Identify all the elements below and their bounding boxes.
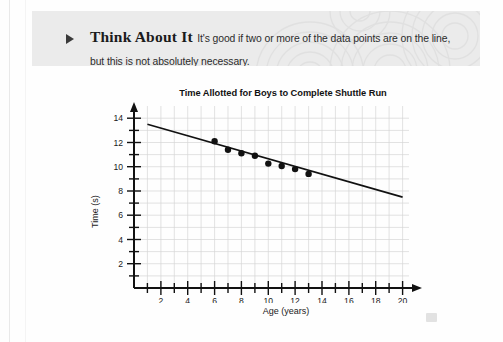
y-tick-label: 8 xyxy=(118,186,123,196)
data-point xyxy=(279,163,285,169)
data-point xyxy=(305,171,311,177)
page-binding-edge xyxy=(9,0,10,342)
y-tick-label: 4 xyxy=(118,235,123,245)
y-axis-tick-labels: 2 4 6 8 10 12 14 xyxy=(113,113,123,269)
x-tick-label: 16 xyxy=(344,296,354,303)
y-axis-label: Time (s) xyxy=(90,195,100,228)
data-point xyxy=(265,160,271,166)
x-tick-label: 14 xyxy=(317,296,327,303)
x-tick-label: 8 xyxy=(239,296,244,303)
x-tick-label: 12 xyxy=(290,296,300,303)
data-point xyxy=(252,153,258,159)
callout-title: Think About It xyxy=(90,28,193,45)
x-axis-tick-labels: 2 4 6 8 10 12 14 16 18 20 xyxy=(159,296,408,303)
triangle-right-icon xyxy=(66,34,74,44)
horizontal-gridlines xyxy=(134,118,409,276)
y-tick-label: 2 xyxy=(118,259,123,269)
think-about-it-callout: Think About It It's good if two or more … xyxy=(32,11,480,66)
x-tick-label: 20 xyxy=(398,296,408,303)
x-tick-label: 10 xyxy=(264,296,274,303)
data-point xyxy=(238,150,244,156)
data-point xyxy=(292,166,298,172)
data-point xyxy=(211,138,217,144)
data-point xyxy=(225,147,231,153)
trend-line xyxy=(147,124,402,197)
callout-text: Think About It It's good if two or more … xyxy=(90,25,460,66)
chart-plot-area: 2 4 6 8 10 12 14 2 4 6 8 10 12 14 16 18 … xyxy=(96,88,426,303)
shuttle-run-chart: Time Allotted for Boys to Complete Shutt… xyxy=(96,88,426,328)
gray-square-mark xyxy=(426,313,437,322)
x-tick-label: 18 xyxy=(371,296,381,303)
x-axis-label: Age (years) xyxy=(186,306,386,316)
y-tick-label: 10 xyxy=(113,162,123,172)
page-inner-edge xyxy=(25,0,26,342)
y-tick-label: 6 xyxy=(118,210,123,220)
page-background: Think About It It's good if two or more … xyxy=(0,0,503,342)
x-tick-label: 2 xyxy=(159,296,164,303)
y-tick-label: 14 xyxy=(113,113,123,123)
vertical-gridlines xyxy=(147,106,402,288)
x-tick-label: 4 xyxy=(185,296,190,303)
y-tick-label: 12 xyxy=(113,138,123,148)
x-tick-label: 6 xyxy=(212,296,217,303)
